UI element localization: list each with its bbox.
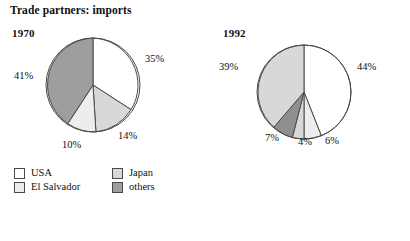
legend-item-japan-1970[interactable]: Japan	[112, 168, 155, 179]
legend-item-usa-1970[interactable]: USA	[14, 168, 106, 179]
legend-label-el-salvador-1970: El Salvador	[31, 182, 80, 193]
pie-value-label-el-salvador-1970: 10%	[62, 140, 81, 151]
pie-value-label-others-1970: 41%	[14, 71, 33, 82]
legend-swatch-usa-icon	[14, 168, 25, 179]
pie-chart-1970	[45, 37, 141, 133]
chart-year-label-1992: 1992	[223, 27, 246, 39]
legend-label-others-1970: others	[129, 182, 155, 193]
legend-swatch-others-icon	[112, 182, 123, 193]
pie-value-label-el-salvador-1992: 6%	[325, 136, 339, 147]
legend-item-others-1970[interactable]: others	[112, 182, 155, 193]
pie-value-label-japan-1992: 4%	[298, 137, 312, 148]
pie-chart-1992	[256, 44, 352, 140]
legend-swatch-el-salvador-icon	[14, 182, 25, 193]
chart-year-label-1970: 1970	[12, 27, 35, 39]
pie-value-label-usa-1992: 44%	[357, 62, 376, 73]
legend-swatch-japan-icon	[112, 168, 123, 179]
legend-label-japan-1970: Japan	[129, 168, 153, 179]
chart-panel-1970: 1970 35% 14% 10% 41% USA Japan El Sa	[0, 0, 205, 241]
pie-svg-1992	[256, 44, 352, 140]
pie-svg-1970	[45, 37, 141, 133]
chart-panel-1992: 1992 44% 6% 4% 7% 39% USA El Salvador	[205, 0, 410, 241]
pie-value-label-others-1992: 39%	[219, 62, 238, 73]
pie-value-label-usa-1970: 35%	[145, 54, 164, 65]
legend-1970: USA Japan El Salvador others	[14, 168, 155, 193]
pie-value-label-japan-1970: 14%	[118, 131, 137, 142]
legend-item-el-salvador-1970[interactable]: El Salvador	[14, 182, 106, 193]
legend-label-usa-1970: USA	[31, 168, 52, 179]
pie-value-label-mexico-1992: 7%	[265, 133, 279, 144]
